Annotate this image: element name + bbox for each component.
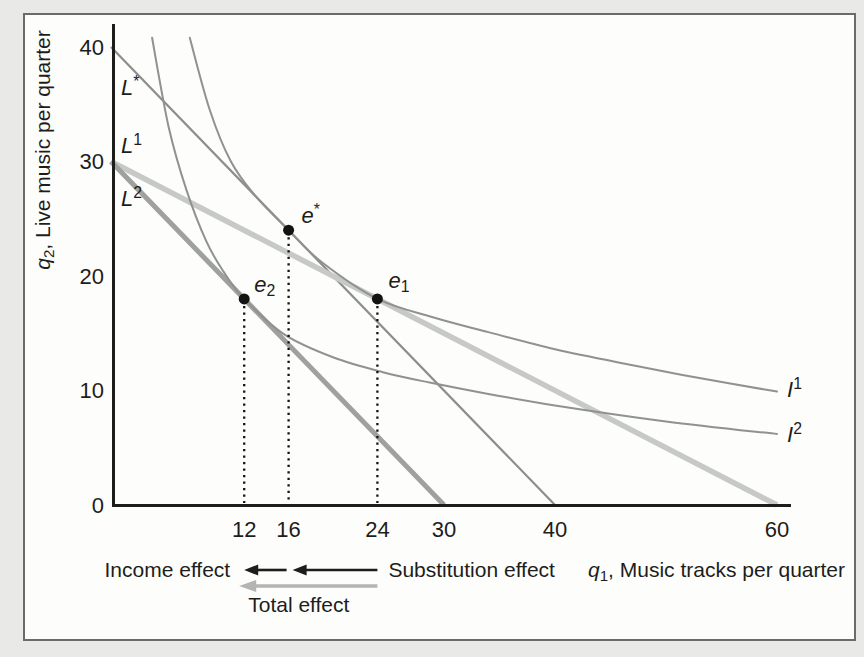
point-e2 xyxy=(239,293,250,304)
x-axis-label: q1, Music tracks per quarter xyxy=(588,558,845,584)
x-tick-30: 30 xyxy=(432,517,456,542)
point-e-star xyxy=(283,225,294,236)
x-tick-40: 40 xyxy=(543,517,567,542)
total-effect-label: Total effect xyxy=(248,593,349,616)
y-tick-40: 40 xyxy=(80,35,104,60)
figure-frame xyxy=(24,14,855,640)
y-tick-20: 20 xyxy=(80,264,104,289)
y-tick-10: 10 xyxy=(80,378,104,403)
x-tick-12: 12 xyxy=(232,517,256,542)
x-tick-16: 16 xyxy=(276,517,300,542)
y-tick-0: 0 xyxy=(92,493,104,518)
income-effect-label: Income effect xyxy=(105,558,231,581)
y-tick-30: 30 xyxy=(80,149,104,174)
y-axis-label: q2, Live music per quarter xyxy=(31,30,57,270)
substitution-effect-label: Substitution effect xyxy=(388,558,555,581)
chart-canvas: e*e1e2L*L1L2I1I2010203040121624304060q2,… xyxy=(0,0,864,657)
x-tick-60: 60 xyxy=(765,517,789,542)
point-e1 xyxy=(372,293,383,304)
x-tick-24: 24 xyxy=(365,517,389,542)
